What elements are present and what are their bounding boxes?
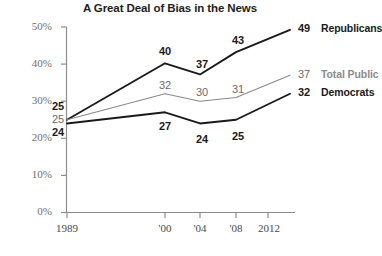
data-label-democrats-2012: 32 <box>294 86 314 98</box>
y-tick-label-10: 10% <box>8 168 52 180</box>
data-label-democrats-1989: 24 <box>48 126 68 138</box>
data-label-total-public-04: 30 <box>192 86 212 98</box>
legend-label-republicans: Republicans <box>321 22 382 34</box>
series-line-total-public <box>67 75 290 120</box>
data-label-republicans-1989: 25 <box>48 100 68 112</box>
y-tick-label-40: 40% <box>8 57 52 69</box>
legend-label-total-public: Total Public <box>321 68 379 80</box>
data-label-total-public-1989: 25 <box>48 113 68 125</box>
data-label-republicans-08: 43 <box>228 34 248 46</box>
legend-label-democrats: Democrats <box>321 86 374 98</box>
x-axis-ticks <box>67 213 268 219</box>
y-tick-label-30: 30% <box>8 94 52 106</box>
data-label-democrats-00: 27 <box>155 120 175 132</box>
data-label-total-public-00: 32 <box>155 79 175 91</box>
series-line-democrats <box>67 94 290 124</box>
x-tick-label-1989: 1989 <box>43 222 91 234</box>
data-label-democrats-08: 25 <box>228 130 248 142</box>
series-line-republicans <box>67 30 290 120</box>
y-tick-label-20: 20% <box>8 131 52 143</box>
data-label-total-public-08: 31 <box>228 83 248 95</box>
data-label-republicans-2012: 49 <box>294 22 314 34</box>
x-tick-label-00: '00 <box>149 222 181 234</box>
y-tick-label-50: 50% <box>8 20 52 32</box>
x-tick-label-2012: 2012 <box>248 222 290 234</box>
data-label-republicans-00: 40 <box>155 45 175 57</box>
data-label-republicans-04: 37 <box>192 58 212 70</box>
data-label-total-public-2012: 37 <box>294 68 314 80</box>
y-tick-label-0: 0% <box>8 205 52 217</box>
data-label-democrats-04: 24 <box>192 133 212 145</box>
x-tick-label-04: '04 <box>184 222 216 234</box>
